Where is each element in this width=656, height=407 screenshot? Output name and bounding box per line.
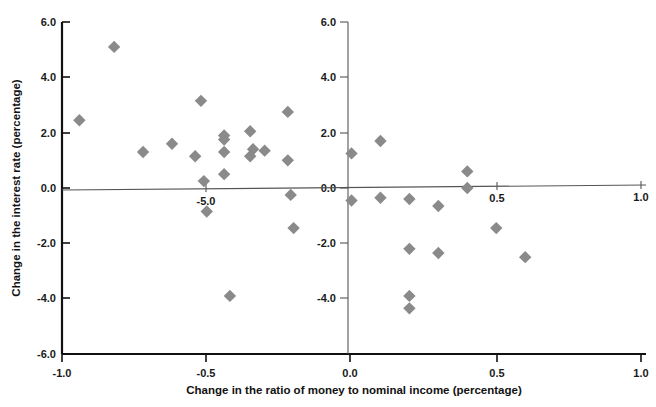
x-tick-label: 1.0 bbox=[633, 367, 648, 379]
y-tick-label: 2.0 bbox=[41, 127, 56, 139]
y-center-tick-label: 6.0 bbox=[321, 16, 336, 28]
x-axis-title: Change in the ratio of money to nominal … bbox=[186, 384, 522, 396]
y-tick-label: -6.0 bbox=[37, 348, 56, 360]
x-inner-tick-label: 1.0 bbox=[633, 191, 648, 203]
chart-canvas: 6.0 4.0 2.0 0.0 -2.0 -4.0 -6.0 -1.0 -0.5… bbox=[0, 0, 656, 407]
chart-background bbox=[0, 0, 656, 407]
x-inner-tick-label: 0.5 bbox=[489, 192, 504, 204]
x-tick-label: -1.0 bbox=[53, 367, 72, 379]
x-tick-label: 0.0 bbox=[342, 367, 357, 379]
y-center-tick-label: -4.0 bbox=[317, 292, 336, 304]
x-inner-tick-label: -5.0 bbox=[197, 195, 216, 207]
y-tick-label: -4.0 bbox=[37, 292, 56, 304]
y-tick-label: -2.0 bbox=[37, 237, 56, 249]
y-tick-label: 4.0 bbox=[41, 71, 56, 83]
y-tick-label: 6.0 bbox=[41, 16, 56, 28]
y-center-tick-label: -2.0 bbox=[317, 237, 336, 249]
y-axis-title: Change in the interest rate (percentage) bbox=[10, 79, 22, 296]
y-tick-label: 0.0 bbox=[41, 182, 56, 194]
scatter-chart-figure: 6.0 4.0 2.0 0.0 -2.0 -4.0 -6.0 -1.0 -0.5… bbox=[0, 0, 656, 407]
y-center-tick-label: 4.0 bbox=[321, 71, 336, 83]
x-tick-label: 0.5 bbox=[489, 367, 504, 379]
y-center-tick-label: 2.0 bbox=[321, 127, 336, 139]
x-tick-label: -0.5 bbox=[197, 367, 216, 379]
